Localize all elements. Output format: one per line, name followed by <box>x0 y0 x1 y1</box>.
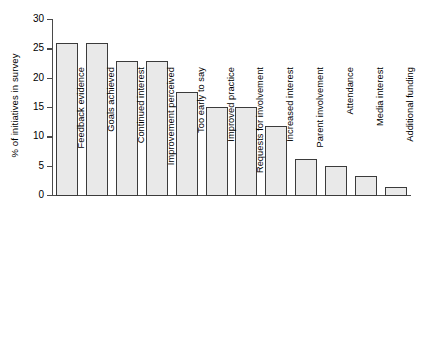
x-axis-category-label: Requests for involvement <box>252 67 268 199</box>
x-axis-category-label: Attendance <box>342 67 358 199</box>
y-axis-tick-label: 20 <box>4 73 44 83</box>
bar-chart: % of initiatives in survey 051015202530 … <box>0 0 425 339</box>
y-axis-tick-label: 5 <box>4 161 44 171</box>
y-axis-tick-label: 0 <box>4 190 44 200</box>
x-axis-category-labels: Feedback evidenceGoals achievedContinued… <box>52 199 411 334</box>
x-axis-category-label: Improved practice <box>223 67 239 199</box>
x-axis-category-label: Too early to say <box>193 67 209 199</box>
y-axis-tick-label: 10 <box>4 131 44 141</box>
x-axis-category-label: Media interest <box>372 67 388 199</box>
x-axis-category-label: Goals achieved <box>103 67 119 199</box>
y-axis-tick-label: 30 <box>4 14 44 24</box>
x-axis-category-label: Additional funding <box>402 67 418 199</box>
x-axis-category-label: Parent involvement <box>312 67 328 199</box>
x-axis-category-label: Continued interest <box>133 67 149 199</box>
x-axis-category-label: Improvement perceived <box>163 67 179 199</box>
x-axis-category-label: Feedback evidence <box>73 67 89 199</box>
x-axis-category-label: Increased interest <box>282 67 298 199</box>
y-axis-tick-label: 15 <box>4 102 44 112</box>
y-axis-tick-label: 25 <box>4 43 44 53</box>
